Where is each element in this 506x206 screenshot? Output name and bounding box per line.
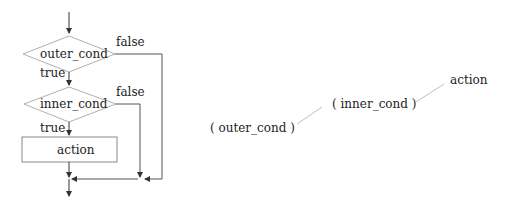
tree-node-outer: ( outer_cond ) bbox=[210, 122, 295, 134]
inner-true-label: true bbox=[40, 122, 65, 134]
tree-edge-outer-inner bbox=[297, 107, 322, 124]
tree-edge-inner-action bbox=[416, 84, 444, 102]
tree-node-action: action bbox=[450, 74, 488, 86]
outer-condition-label: outer_cond bbox=[40, 48, 108, 60]
outer-false-label: false bbox=[116, 36, 145, 48]
outer-false-path bbox=[115, 54, 162, 179]
inner-false-label: false bbox=[116, 86, 145, 98]
action-label: action bbox=[57, 144, 95, 156]
inner-condition-label: inner_cond bbox=[40, 98, 108, 110]
outer-true-label: true bbox=[40, 67, 65, 79]
inner-false-path bbox=[116, 104, 140, 177]
tree-node-inner: ( inner_cond ) bbox=[332, 98, 416, 110]
